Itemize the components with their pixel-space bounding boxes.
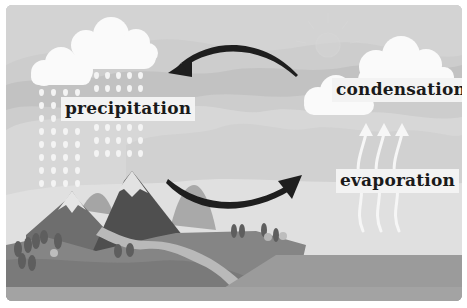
label-condensation: condensation	[332, 78, 462, 102]
curved-arrow-right-icon	[166, 175, 302, 209]
label-precipitation: precipitation	[61, 97, 195, 121]
label-evaporation: evaporation	[336, 169, 459, 193]
curved-arrow-left-icon	[168, 45, 298, 77]
arrows	[6, 5, 462, 301]
water-cycle-diagram: precipitation condensation evaporation	[6, 5, 462, 301]
